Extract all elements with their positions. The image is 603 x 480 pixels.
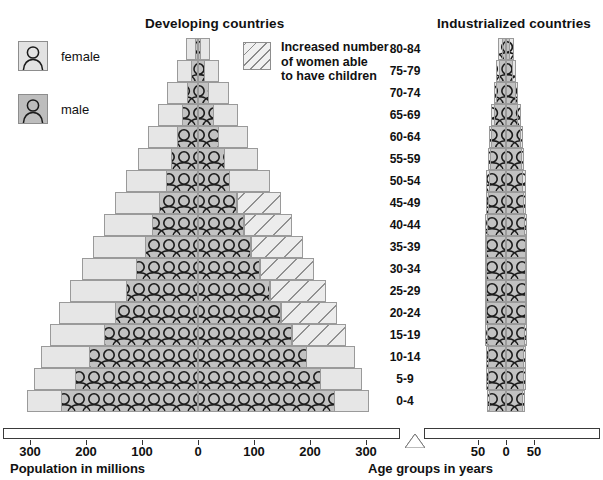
pyramid-row bbox=[426, 82, 603, 104]
pyramid-row bbox=[426, 214, 603, 236]
pyramid-industrialized-countries bbox=[426, 38, 603, 412]
age-group-label: 35-39 bbox=[384, 236, 426, 258]
pyramid-row bbox=[426, 302, 603, 324]
bar-female-current bbox=[506, 104, 518, 126]
pyramid-row bbox=[0, 60, 380, 82]
age-group-label: 20-24 bbox=[384, 302, 426, 324]
bar-increased-women-hatch bbox=[260, 258, 315, 280]
age-group-label: 45-49 bbox=[384, 192, 426, 214]
age-group-label: 75-79 bbox=[384, 60, 426, 82]
bar-female-current bbox=[198, 390, 335, 412]
bar-female-current bbox=[198, 214, 244, 236]
pyramid-row bbox=[0, 302, 380, 324]
age-group-axis: 80-8475-7970-7465-6960-6455-5950-5445-49… bbox=[384, 38, 426, 412]
x-axis-developing bbox=[3, 428, 400, 439]
bar-female-current bbox=[506, 214, 525, 236]
bar-female-current bbox=[506, 302, 526, 324]
bar-male-current bbox=[496, 82, 506, 104]
age-group-label: 80-84 bbox=[384, 38, 426, 60]
axis-caption-age-groups: Age groups in years bbox=[368, 461, 493, 476]
pyramid-row bbox=[426, 60, 603, 82]
bar-female-current bbox=[506, 192, 524, 214]
bar-increased-women-hatch bbox=[244, 214, 292, 236]
pyramid-row bbox=[0, 170, 380, 192]
pyramid-row bbox=[426, 148, 603, 170]
pyramid-row bbox=[0, 236, 380, 258]
bar-male-current bbox=[89, 346, 198, 368]
pyramid-row bbox=[426, 236, 603, 258]
bar-female-current bbox=[198, 346, 307, 368]
age-group-label: 10-14 bbox=[384, 346, 426, 368]
bar-male-current bbox=[159, 192, 198, 214]
bar-male-current bbox=[491, 126, 506, 148]
age-group-label: 50-54 bbox=[384, 170, 426, 192]
bar-male-current bbox=[487, 324, 506, 346]
age-group-label: 55-59 bbox=[384, 148, 426, 170]
bar-female-current bbox=[198, 38, 201, 60]
pyramid-row bbox=[426, 38, 603, 60]
bar-increased-women-hatch bbox=[281, 302, 337, 324]
bar-male-current bbox=[152, 214, 198, 236]
bar-male-current bbox=[489, 390, 506, 412]
bar-male-current bbox=[171, 148, 198, 170]
x-axis-industrialized-tick-label: 50 bbox=[527, 444, 541, 459]
pyramid-row bbox=[426, 346, 603, 368]
pyramid-row bbox=[0, 38, 380, 60]
x-axis-developing-tick-label: 300 bbox=[355, 444, 377, 459]
fulcrum-triangle-marker bbox=[405, 434, 425, 448]
bar-female-current bbox=[506, 170, 523, 192]
x-axis-developing-tick-label: 100 bbox=[243, 444, 265, 459]
x-axis-developing-tick-label: 300 bbox=[19, 444, 41, 459]
bar-male-current bbox=[499, 60, 506, 82]
age-group-label: 15-19 bbox=[384, 324, 426, 346]
pyramid-row bbox=[0, 82, 380, 104]
bar-male-current bbox=[177, 126, 198, 148]
x-axis-developing-tick-label: 200 bbox=[299, 444, 321, 459]
pyramid-row bbox=[426, 324, 603, 346]
pyramid-row bbox=[426, 170, 603, 192]
bar-male-current bbox=[166, 170, 198, 192]
bar-female-current bbox=[198, 258, 260, 280]
bar-increased-women-hatch bbox=[292, 324, 346, 346]
bar-male-current bbox=[486, 280, 506, 302]
bar-male-current bbox=[191, 60, 198, 82]
bar-male-current bbox=[115, 302, 198, 324]
pyramid-row bbox=[0, 192, 380, 214]
bar-female-current bbox=[198, 192, 237, 214]
pyramid-row bbox=[0, 346, 380, 368]
age-group-label: 5-9 bbox=[384, 368, 426, 390]
panel-title-industrialized: Industrialized countries bbox=[437, 16, 591, 31]
bar-female-current bbox=[198, 236, 251, 258]
pyramid-row bbox=[426, 258, 603, 280]
pyramid-row bbox=[0, 258, 380, 280]
bar-female-current bbox=[198, 324, 292, 346]
bar-male-current bbox=[487, 214, 506, 236]
x-axis-industrialized-tick-label: 50 bbox=[471, 444, 485, 459]
pyramid-row bbox=[0, 214, 380, 236]
bar-female-current bbox=[506, 236, 526, 258]
x-axis-industrialized bbox=[424, 428, 600, 439]
bar-female-current bbox=[198, 280, 270, 302]
age-group-label: 40-44 bbox=[384, 214, 426, 236]
bar-increased-women-hatch bbox=[237, 192, 281, 214]
bar-female-current bbox=[198, 148, 225, 170]
bar-male-current bbox=[75, 368, 198, 390]
bar-male-current bbox=[490, 148, 506, 170]
bar-increased-women-hatch bbox=[251, 236, 303, 258]
x-axis-developing-tick-label: 200 bbox=[75, 444, 97, 459]
age-group-label: 70-74 bbox=[384, 82, 426, 104]
bar-female-current bbox=[198, 82, 209, 104]
pyramid-row bbox=[426, 104, 603, 126]
bar-female-current bbox=[506, 38, 510, 60]
bar-female-current bbox=[506, 258, 526, 280]
bar-female-current bbox=[506, 60, 513, 82]
pyramid-row bbox=[0, 148, 380, 170]
pyramid-row bbox=[0, 368, 380, 390]
bar-increased-women-hatch bbox=[270, 280, 326, 302]
x-axis-industrialized-tick-label: 0 bbox=[502, 444, 509, 459]
bar-female-current bbox=[198, 170, 230, 192]
pyramid-row bbox=[426, 368, 603, 390]
bar-male-current bbox=[488, 346, 506, 368]
axis-caption-population: Population in millions bbox=[10, 461, 145, 476]
bar-female-current bbox=[506, 148, 522, 170]
